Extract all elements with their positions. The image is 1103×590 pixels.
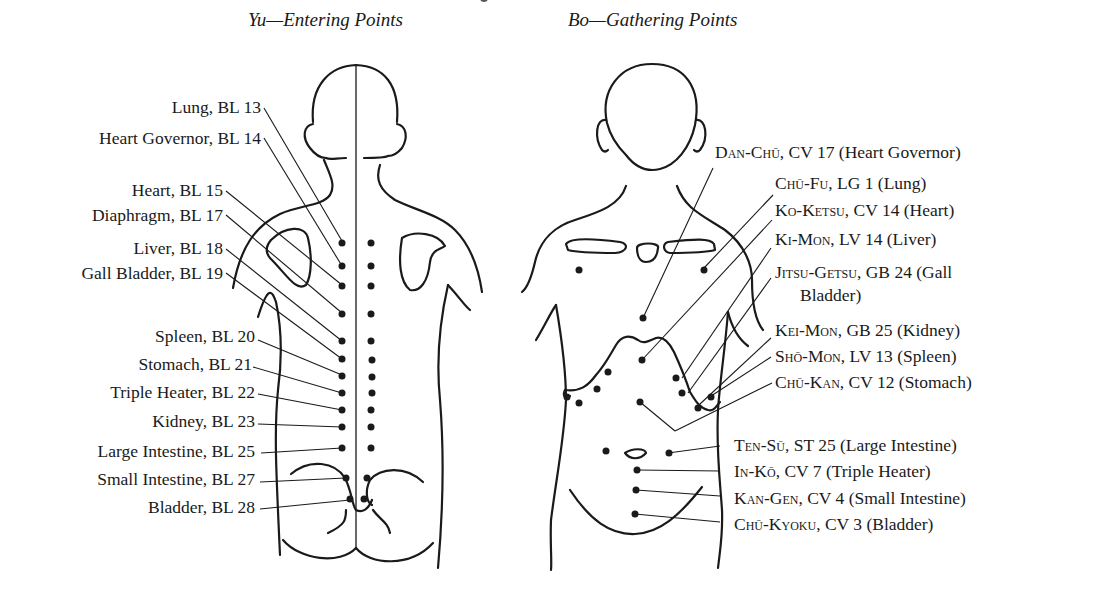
label-bladder-bl28: Bladder, BL 28 bbox=[148, 497, 255, 517]
label-large-intestine-bl25: Large Intestine, BL 25 bbox=[98, 441, 255, 461]
label-heart-governor-bl14: Heart Governor, BL 14 bbox=[99, 128, 261, 148]
label-liver-bl18: Liver, BL 18 bbox=[133, 238, 223, 258]
label-kei-mon-gb25: Kei-Mon, GB 25 (Kidney) bbox=[775, 320, 960, 340]
label-sho-mon-lv13: Shō-Mon, LV 13 (Spleen) bbox=[775, 346, 957, 366]
label-in-ko-cv7: In-Kō, CV 7 (Triple Heater) bbox=[734, 461, 931, 481]
label-ko-ketsu-cv14: Ko-Ketsu, CV 14 (Heart) bbox=[775, 200, 954, 220]
label-heart-bl15: Heart, BL 15 bbox=[132, 180, 223, 200]
label-stomach-bl21: Stomach, BL 21 bbox=[138, 354, 252, 374]
label-ki-mon-lv14: Ki-Mon, LV 14 (Liver) bbox=[775, 229, 936, 249]
label-kan-gen-cv4: Kan-Gen, CV 4 (Small Intestine) bbox=[734, 488, 966, 508]
label-kidney-bl23: Kidney, BL 23 bbox=[152, 411, 255, 431]
label-spleen-bl20: Spleen, BL 20 bbox=[155, 326, 255, 346]
back-figure-outline bbox=[233, 65, 482, 568]
label-diaphragm-bl17: Diaphragm, BL 17 bbox=[92, 205, 223, 225]
label-small-intestine-bl27: Small Intestine, BL 27 bbox=[97, 469, 255, 489]
label-triple-heater-bl22: Triple Heater, BL 22 bbox=[110, 382, 255, 402]
acupoint-dots bbox=[339, 240, 715, 518]
label-jitsu-getsu-continuation: Bladder) bbox=[800, 285, 861, 305]
label-chu-kan-cv12: Chū-Kan, CV 12 (Stomach) bbox=[775, 372, 972, 392]
label-ten-su-st25: Ten-Sū, ST 25 (Large Intestine) bbox=[734, 435, 957, 455]
label-chu-kyoku-cv3: Chū-Kyoku, CV 3 (Bladder) bbox=[734, 514, 933, 534]
label-jitsu-getsu-gb24: Jitsu-Getsu, GB 24 (Gall bbox=[775, 262, 952, 282]
label-chu-fu-lg1: Chū-Fu, LG 1 (Lung) bbox=[775, 173, 926, 193]
label-dan-chu-cv17: Dan-Chū, CV 17 (Heart Governor) bbox=[715, 142, 961, 162]
label-lung-bl13: Lung, BL 13 bbox=[172, 97, 261, 117]
label-gall-bladder-bl19: Gall Bladder, BL 19 bbox=[81, 263, 223, 283]
